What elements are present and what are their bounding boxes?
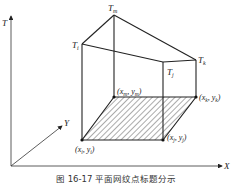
label-t-m: Tm	[108, 3, 118, 14]
label-xi-yi: (xi, yi)	[75, 145, 95, 155]
label-xj-yj: (xj, yj)	[167, 133, 187, 143]
label-t-j: Tj	[167, 67, 174, 78]
label-xk-yk: (xk, yk)	[199, 93, 221, 103]
label-xm-ym: (xm, ym)	[117, 87, 142, 97]
y-axis-label: Y	[64, 118, 70, 128]
top-edges	[82, 15, 196, 62]
top-labels: Tm Ti Tk Tj	[72, 3, 206, 78]
x-axis-label: X	[223, 161, 230, 171]
figure-caption: 图 16-17 平面网纹点标题分示	[56, 174, 176, 184]
prism-interpolation-diagram: T X Y Tm Ti Tk Tj	[0, 0, 233, 184]
label-t-k: Tk	[198, 55, 206, 66]
y-axis	[11, 126, 62, 166]
label-t-i: Ti	[72, 40, 79, 51]
t-axis-label: T	[2, 18, 8, 28]
